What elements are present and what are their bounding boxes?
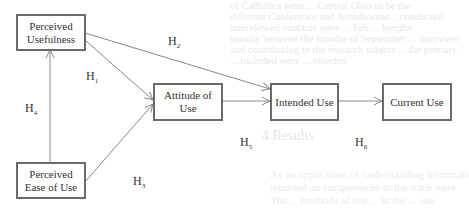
label-sub: 2 [177, 42, 181, 50]
node-perceived-usefulness: Perceived Usefulness [16, 14, 86, 51]
node-label: Perceived [27, 20, 75, 33]
edge-h3 [85, 104, 153, 182]
node-attitude-of-use: Attitude of Use [153, 83, 223, 121]
label-sub: 4 [34, 109, 38, 117]
node-intended-use: Intended Use [270, 83, 339, 121]
edge-label-h2: H2 [168, 34, 180, 50]
node-perceived-ease-of-use: Perceived Ease of Use [16, 162, 86, 199]
label-base: H [86, 69, 95, 83]
label-base: H [168, 34, 177, 48]
node-current-use: Current Use [382, 83, 452, 121]
label-sub: 6 [364, 143, 368, 151]
edge-label-h1: H1 [86, 69, 98, 85]
edge-label-h5: H5 [240, 135, 252, 151]
node-label: Perceived [25, 168, 78, 181]
label-base: H [240, 135, 249, 149]
edge-label-h6: H6 [355, 135, 367, 151]
node-label: Use [164, 102, 212, 115]
label-base: H [25, 101, 34, 115]
node-label: Current Use [390, 96, 443, 109]
label-sub: 5 [249, 143, 253, 151]
label-sub: 1 [95, 77, 99, 85]
label-base: H [133, 174, 142, 188]
label-sub: 3 [142, 182, 146, 190]
node-label: Attitude of [164, 89, 212, 102]
edge-label-h3: H3 [133, 174, 145, 190]
edge-label-h4: H4 [25, 101, 37, 117]
label-base: H [355, 135, 364, 149]
node-label: Usefulness [27, 33, 75, 46]
node-label: Ease of Use [25, 181, 78, 194]
node-label: Intended Use [275, 96, 333, 109]
